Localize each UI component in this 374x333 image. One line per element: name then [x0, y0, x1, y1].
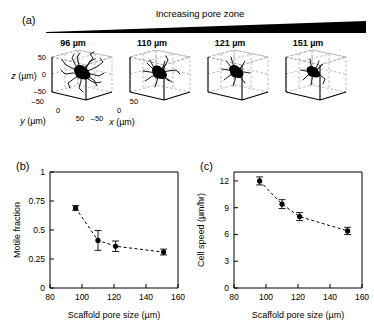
pore-size-label-3: 121 µm [215, 38, 246, 48]
x-tick-label-b: 100 [75, 292, 89, 302]
pore-size-label-2: 110 µm [137, 38, 167, 48]
panel-a-letter: (a) [22, 14, 35, 26]
z-tick-50: 50 [38, 53, 46, 62]
data-line-b [76, 208, 164, 252]
x-axis-label: x (µm) [108, 117, 135, 127]
panel-b-letter: (b) [16, 160, 29, 172]
plot-frame-b [50, 172, 178, 288]
y-tick-label-c: 9 [224, 203, 229, 213]
x-tick-label-c: 140 [323, 292, 337, 302]
data-point-b [72, 205, 79, 210]
x-tick-50: 50 [130, 97, 138, 106]
z-tick-neg50: –50 [33, 87, 46, 96]
trajectory-box-4 [286, 50, 346, 100]
y-tick-50: 50 [76, 114, 84, 123]
z-axis-label: z (µm) [10, 71, 37, 81]
y-axis-label: y (µm) [19, 116, 46, 126]
data-line-c [260, 181, 348, 231]
data-point-c [296, 213, 303, 221]
banner-label: Increasing pore zone [156, 8, 245, 19]
trajectory-box-3 [208, 50, 268, 100]
pore-size-label-1: 96 µm [60, 38, 86, 48]
x-tick-label-b: 140 [139, 292, 153, 302]
y-tick-label-b: 0.25 [28, 254, 45, 264]
panel-b: (b) 00.250.50.75180100120140160Scaffold … [0, 150, 190, 333]
y-tick-label-b: 1 [40, 167, 45, 177]
y-tick-0: 0 [56, 106, 60, 115]
data-point-c [344, 227, 351, 234]
x-tick-label-b: 120 [107, 292, 121, 302]
y-tick-label-b: 0.75 [28, 196, 45, 206]
y-tick-label-c: 3 [224, 256, 229, 266]
x-axis-title-c: Scaffold pore size (µm) [252, 310, 345, 320]
increasing-pore-zone-wedge [46, 21, 366, 33]
panel-c: (c) 03691280100120140160Scaffold pore si… [184, 150, 374, 333]
y-tick-label-c: 6 [224, 229, 229, 239]
plot-frame-c [234, 172, 362, 288]
y-axis-title-c: Cell speed (µm/hr) [196, 193, 206, 267]
data-point-c [256, 177, 263, 185]
panel-c-letter: (c) [200, 160, 213, 172]
x-tick-label-c: 120 [291, 292, 305, 302]
x-tick-label-c: 80 [229, 292, 239, 302]
x-tick-label-b: 80 [45, 292, 55, 302]
panel-a: (a) Increasing pore zone 96 µm 110 µm 12… [0, 0, 374, 150]
x-tick-label-c: 100 [259, 292, 273, 302]
figure-root: (a) Increasing pore zone 96 µm 110 µm 12… [0, 0, 374, 333]
y-axis-title-b: Motile fraction [12, 202, 22, 258]
pore-size-label-4: 151 µm [293, 38, 324, 48]
data-point-b [95, 231, 102, 251]
trajectory-box-1 [52, 50, 112, 100]
y-tick-label-c: 12 [220, 176, 230, 186]
z-tick-0: 0 [42, 70, 46, 79]
x-tick-neg50: –50 [91, 114, 104, 123]
data-point-b [160, 249, 167, 255]
x-axis-title-b: Scaffold pore size (µm) [68, 310, 161, 320]
x-tick-0: 0 [117, 106, 121, 115]
data-point-b [112, 241, 119, 251]
trajectory-box-2 [130, 50, 190, 100]
x-tick-label-c: 160 [355, 292, 369, 302]
y-tick-label-b: 0.5 [33, 225, 45, 235]
y-tick-neg50: –50 [31, 97, 44, 106]
